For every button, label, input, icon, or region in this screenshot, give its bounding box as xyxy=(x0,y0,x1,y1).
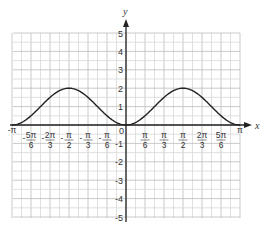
x-tick-denominator: 3 xyxy=(48,140,53,150)
x-tick-numerator: π xyxy=(66,130,72,140)
x-axis-arrow-icon xyxy=(244,122,252,128)
x-tick-numerator: 5π xyxy=(26,130,37,140)
y-tick-label: -1 xyxy=(115,139,123,149)
x-tick-minus: - xyxy=(80,133,83,143)
x-tick-denominator: 6 xyxy=(219,140,224,150)
x-tick-minus: - xyxy=(61,133,64,143)
x-tick-label: π xyxy=(237,125,243,135)
x-tick-denominator: 6 xyxy=(143,140,148,150)
y-tick-label: 3 xyxy=(118,65,123,75)
y-tick-label: 2 xyxy=(118,84,123,94)
x-tick-denominator: 2 xyxy=(181,140,186,150)
y-tick-label: 4 xyxy=(118,47,123,57)
x-tick-numerator: 2π xyxy=(45,130,56,140)
x-tick-minus: - xyxy=(23,133,26,143)
x-tick-minus: - xyxy=(99,133,102,143)
y-tick-label: -3 xyxy=(115,176,123,186)
x-tick-numerator: π xyxy=(85,130,91,140)
x-tick-label: -π xyxy=(8,125,17,135)
x-tick-numerator: π xyxy=(161,130,167,140)
x-tick-denominator: 6 xyxy=(29,140,34,150)
x-axis-label: x xyxy=(254,120,260,131)
x-tick-denominator: 3 xyxy=(86,140,91,150)
y-tick-label: -5 xyxy=(115,213,123,223)
y-tick-label: 1 xyxy=(118,102,123,112)
x-tick-numerator: π xyxy=(142,130,148,140)
function-graph: x y 0 54321-1-2-3-4-5 -π5π6-2π3-π2-π3-π6… xyxy=(0,0,265,227)
x-tick-numerator: π xyxy=(180,130,186,140)
x-tick-denominator: 3 xyxy=(200,140,205,150)
x-tick-denominator: 3 xyxy=(162,140,167,150)
x-tick-denominator: 6 xyxy=(105,140,110,150)
y-tick-label: -2 xyxy=(115,157,123,167)
x-tick-minus: - xyxy=(42,133,45,143)
y-axis-arrow-icon xyxy=(123,19,129,27)
y-tick-label: 5 xyxy=(118,29,123,39)
origin-label: 0 xyxy=(119,126,124,136)
x-tick-numerator: π xyxy=(104,130,110,140)
x-tick-denominator: 2 xyxy=(67,140,72,150)
y-axis-label: y xyxy=(122,6,128,17)
x-tick-numerator: 5π xyxy=(216,130,227,140)
y-tick-label: -4 xyxy=(115,194,123,204)
x-tick-numerator: 2π xyxy=(197,130,208,140)
